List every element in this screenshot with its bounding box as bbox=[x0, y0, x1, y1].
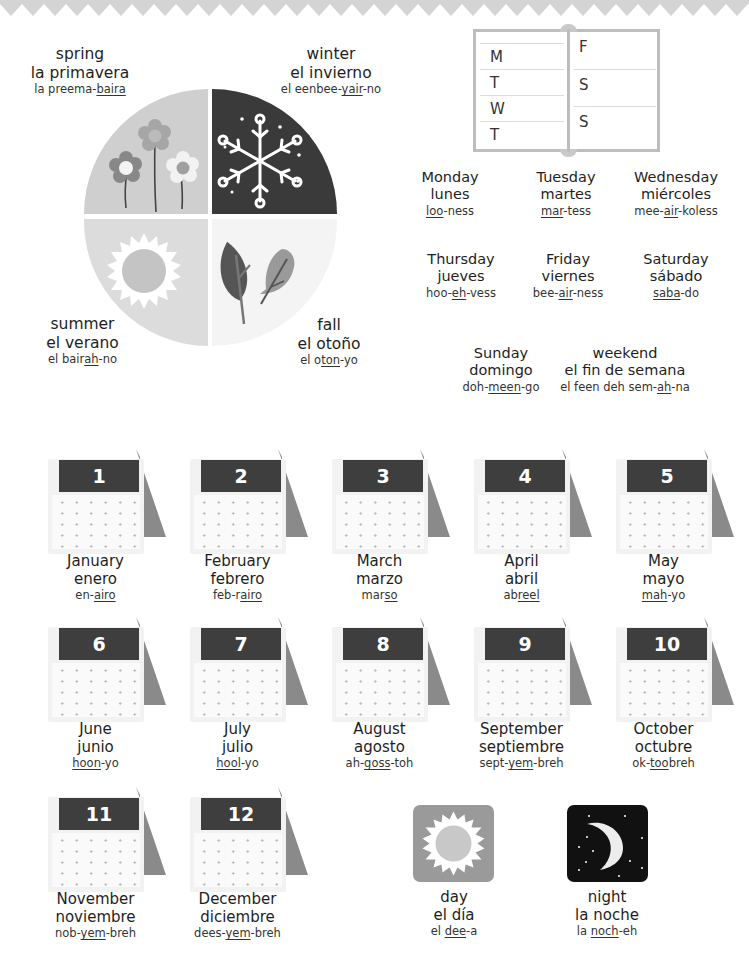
month-label-june: Junejuniohoon-yo bbox=[38, 720, 153, 771]
english-word: Thursday bbox=[420, 251, 502, 268]
pronunciation: sept-yem-breh bbox=[464, 757, 579, 771]
month-label-august: Augustagostoah-goss-toh bbox=[322, 720, 437, 771]
calendar-icon: 1 bbox=[48, 449, 166, 557]
english-word: weekend bbox=[560, 345, 690, 362]
week-row: T bbox=[480, 69, 564, 95]
pronunciation: loo-ness bbox=[410, 205, 490, 219]
english-word: December bbox=[180, 890, 295, 908]
month-label-november: Novembernoviembrenob-yem-breh bbox=[38, 890, 153, 941]
pronunciation: el dee-a bbox=[404, 925, 504, 939]
day-tile bbox=[413, 805, 494, 882]
calendar-icon: 4 bbox=[474, 449, 592, 557]
english-word: spring bbox=[30, 45, 130, 64]
english-word: summer bbox=[30, 315, 135, 334]
spanish-word: el día bbox=[404, 906, 504, 924]
spanish-word: noviembre bbox=[38, 908, 153, 926]
spanish-word: la primavera bbox=[30, 64, 130, 83]
english-word: September bbox=[464, 720, 579, 738]
spanish-word: abril bbox=[464, 570, 579, 588]
pronunciation: hool-yo bbox=[180, 757, 295, 771]
spanish-word: julio bbox=[180, 738, 295, 756]
pronunciation: abreel bbox=[464, 589, 579, 603]
pronunciation: el oton-yo bbox=[284, 354, 374, 368]
calendar-icon: 11 bbox=[48, 787, 166, 895]
english-word: Wednesday bbox=[630, 169, 722, 186]
night-tile bbox=[567, 805, 648, 882]
seasons-wheel bbox=[84, 89, 338, 349]
week-row: M bbox=[480, 43, 564, 69]
calendar-date-grid bbox=[478, 663, 566, 717]
week-row: F bbox=[574, 32, 656, 69]
calendar-month-number: 12 bbox=[201, 798, 281, 830]
spanish-word: septiembre bbox=[464, 738, 579, 756]
pronunciation: mee-air-koless bbox=[630, 205, 722, 219]
english-word: November bbox=[38, 890, 153, 908]
pronunciation: ok-toobreh bbox=[606, 757, 721, 771]
month-label-september: Septemberseptiembresept-yem-breh bbox=[464, 720, 579, 771]
calendar-date-grid bbox=[336, 663, 424, 717]
english-word: July bbox=[180, 720, 295, 738]
calendar-icon: 3 bbox=[332, 449, 450, 557]
calendar-date-grid bbox=[52, 663, 140, 717]
week-row: T bbox=[480, 121, 564, 147]
season-label-spring: spring la primavera la preema-baira bbox=[30, 45, 130, 97]
season-label-summer: summer el verano el bairah-no bbox=[30, 315, 135, 367]
pronunciation: mah-yo bbox=[606, 589, 721, 603]
month-label-april: Aprilabrilabreel bbox=[464, 552, 579, 603]
month-label-october: Octoberoctubreok-toobreh bbox=[606, 720, 721, 771]
pronunciation: ah-goss-toh bbox=[322, 757, 437, 771]
pronunciation: la preema-baira bbox=[30, 83, 130, 97]
calendar-icon: 8 bbox=[332, 617, 450, 725]
calendar-icon: 7 bbox=[190, 617, 308, 725]
pronunciation: feb-rairo bbox=[180, 589, 295, 603]
calendar-icon: 2 bbox=[190, 449, 308, 557]
spanish-word: lunes bbox=[410, 186, 490, 203]
english-word: June bbox=[38, 720, 153, 738]
day-label-wednesday: Wednesday miércoles mee-air-koless bbox=[630, 169, 722, 219]
english-word: Sunday bbox=[460, 345, 542, 362]
pronunciation: dees-yem-breh bbox=[180, 927, 295, 941]
english-word: winter bbox=[276, 45, 386, 64]
season-label-winter: winter el invierno el eenbee-yair-no bbox=[276, 45, 386, 97]
day-label-tuesday: Tuesday martes mar-tess bbox=[526, 169, 606, 219]
day-label-monday: Monday lunes loo-ness bbox=[410, 169, 490, 219]
pronunciation: el eenbee-yair-no bbox=[276, 83, 386, 97]
calendar-date-grid bbox=[52, 833, 140, 887]
pronunciation: en-airo bbox=[38, 589, 153, 603]
season-label-fall: fall el otoño el oton-yo bbox=[284, 316, 374, 368]
spanish-word: el fin de semana bbox=[560, 362, 690, 379]
calendar-date-grid bbox=[194, 495, 282, 549]
calendar-month-number: 8 bbox=[343, 628, 423, 660]
english-word: night bbox=[557, 888, 657, 906]
month-label-july: Julyjuliohool-yo bbox=[180, 720, 295, 771]
calendar-month-number: 3 bbox=[343, 460, 423, 492]
calendar-month-number: 2 bbox=[201, 460, 281, 492]
spanish-word: el otoño bbox=[284, 335, 374, 354]
calendar-month-number: 10 bbox=[627, 628, 707, 660]
spanish-word: agosto bbox=[322, 738, 437, 756]
spanish-word: octubre bbox=[606, 738, 721, 756]
calendar-date-grid bbox=[478, 495, 566, 549]
pronunciation: doh-meen-go bbox=[460, 381, 542, 395]
moon-icon bbox=[567, 805, 648, 882]
calendar-date-grid bbox=[620, 663, 708, 717]
pronunciation: saba-do bbox=[636, 287, 716, 301]
pronunciation: hoon-yo bbox=[38, 757, 153, 771]
spanish-word: enero bbox=[38, 570, 153, 588]
time-label-day: day el día el dee-a bbox=[404, 888, 504, 939]
calendar-date-grid bbox=[52, 495, 140, 549]
calendar-month-number: 11 bbox=[59, 798, 139, 830]
spanish-word: martes bbox=[526, 186, 606, 203]
english-word: fall bbox=[284, 316, 374, 335]
calendar-month-number: 1 bbox=[59, 460, 139, 492]
pronunciation: la noch-eh bbox=[557, 925, 657, 939]
english-word: May bbox=[606, 552, 721, 570]
english-word: March bbox=[322, 552, 437, 570]
pronunciation: nob-yem-breh bbox=[38, 927, 153, 941]
calendar-month-number: 5 bbox=[627, 460, 707, 492]
spanish-word: marzo bbox=[322, 570, 437, 588]
calendar-month-number: 4 bbox=[485, 460, 565, 492]
month-label-february: Februaryfebrerofeb-rairo bbox=[180, 552, 295, 603]
week-left-page: M T W T bbox=[480, 43, 564, 147]
pronunciation: marso bbox=[322, 589, 437, 603]
